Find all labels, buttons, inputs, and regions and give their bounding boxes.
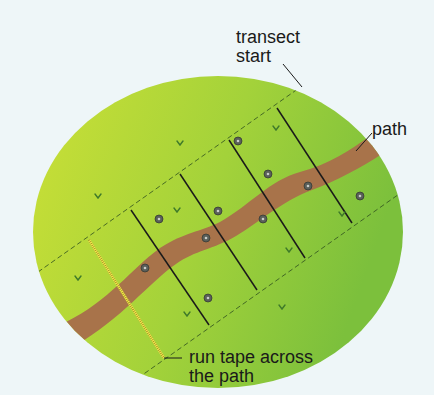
transect-diagram xyxy=(0,0,434,395)
transect-start-label-line1: transect xyxy=(236,28,300,47)
transect-start-label-line2: start xyxy=(236,47,300,66)
tape-label-line1: run tape across xyxy=(189,348,313,367)
transect-start-leader xyxy=(283,64,302,87)
tape-label-line2: the path xyxy=(189,367,313,386)
transect-start-label: transect start xyxy=(236,28,300,66)
tape-label: run tape across the path xyxy=(189,348,313,386)
path-label: path xyxy=(372,120,407,139)
path-label-text: path xyxy=(372,119,407,139)
